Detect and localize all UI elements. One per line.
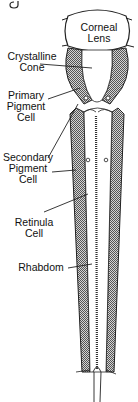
label-primary-pigment-cell: Primary Pigment Cell [4, 90, 48, 123]
label-corneal-lens: Corneal Lens [78, 22, 120, 44]
title-fragment [10, 1, 18, 8]
label-secondary-pigment-cell: Secondary Pigment Cell [0, 152, 56, 185]
label-retinula-cell: Retinula Cell [12, 217, 56, 239]
label-rhabdom: Rhabdom [16, 262, 66, 273]
label-crystalline-cone: Crystalline Cone [0, 51, 64, 73]
label-line: Cell [0, 174, 56, 185]
label-line: Lens [78, 33, 120, 44]
label-line: Rhabdom [16, 262, 66, 273]
label-line: Cell [4, 112, 48, 123]
label-line: Cone [0, 62, 64, 73]
label-line: Cell [12, 228, 56, 239]
